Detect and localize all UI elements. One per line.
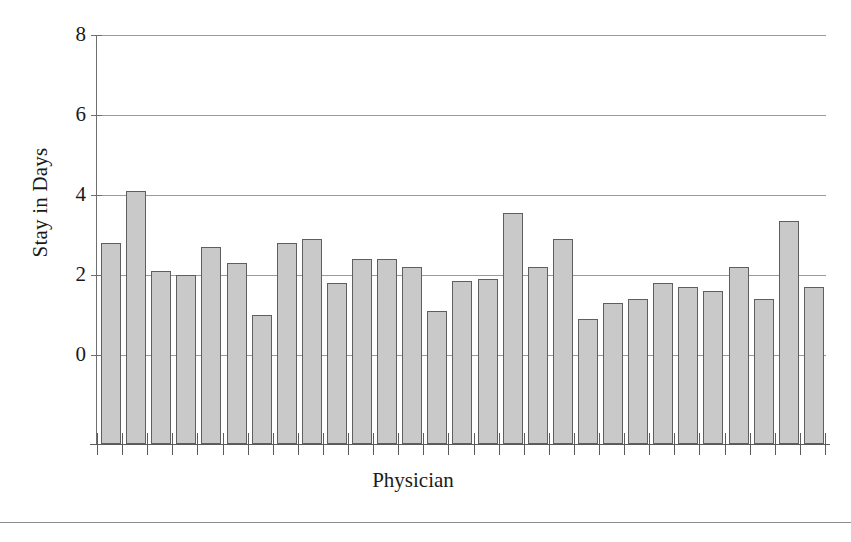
bar [377, 259, 397, 444]
x-axis-tick-mark [423, 433, 424, 455]
bar [176, 275, 196, 444]
bar [578, 319, 598, 444]
bar [628, 299, 648, 444]
bar [729, 267, 749, 444]
x-axis-tick-mark [800, 433, 801, 455]
x-axis-tick-mark [373, 433, 374, 455]
x-axis-tick-mark [474, 433, 475, 455]
x-axis-tick-mark [649, 433, 650, 455]
bar [678, 287, 698, 444]
bar [101, 243, 121, 444]
x-axis-tick-mark [298, 433, 299, 455]
y-axis-tick-mark [91, 115, 102, 116]
bar [352, 259, 372, 444]
bar [452, 281, 472, 444]
x-axis-tick-mark [323, 433, 324, 455]
x-axis-tick-mark [725, 433, 726, 455]
x-axis-tick-mark [750, 433, 751, 455]
x-axis-tick-mark [674, 433, 675, 455]
x-axis-tick-mark [624, 433, 625, 455]
x-axis-tick-mark [273, 433, 274, 455]
x-axis-tick-mark [147, 433, 148, 455]
y-axis-tick-label: 4 [46, 184, 86, 205]
bar [227, 263, 247, 444]
x-axis-tick-mark [825, 433, 826, 455]
bar [503, 213, 523, 444]
x-axis-tick-mark [172, 433, 173, 455]
bar [277, 243, 297, 444]
x-axis-tick-mark [599, 433, 600, 455]
plot-area [97, 35, 826, 444]
x-axis-tick-mark [97, 433, 98, 455]
x-axis-tick-mark [348, 433, 349, 455]
bar [779, 221, 799, 444]
y-axis-tick-mark [91, 275, 102, 276]
chart-figure: Stay in Days 02468 Physician [0, 0, 851, 542]
gridline [97, 195, 826, 196]
y-axis-tick-mark [91, 35, 102, 36]
bar [402, 267, 422, 444]
y-axis-tick-mark [91, 355, 102, 356]
x-axis-tick-mark [223, 433, 224, 455]
x-axis-tick-mark [248, 433, 249, 455]
x-axis-tick-mark [699, 433, 700, 455]
x-axis-tick-mark [775, 433, 776, 455]
gridline [97, 115, 826, 116]
x-axis-tick-mark [448, 433, 449, 455]
x-axis-baseline [90, 444, 830, 445]
x-axis-label: Physician [0, 468, 826, 493]
y-axis-tick-label: 0 [46, 344, 86, 365]
bar [302, 239, 322, 444]
footer-divider [0, 522, 851, 523]
bar [804, 287, 824, 444]
x-axis-tick-mark [499, 433, 500, 455]
bar [603, 303, 623, 444]
bar [754, 299, 774, 444]
bar [703, 291, 723, 444]
bar [327, 283, 347, 444]
x-axis-tick-mark [524, 433, 525, 455]
bar [201, 247, 221, 444]
y-axis-tick-label: 2 [46, 264, 86, 285]
x-axis-tick-mark [197, 433, 198, 455]
bar [252, 315, 272, 444]
y-axis-tick-mark [91, 195, 102, 196]
bar [653, 283, 673, 444]
bar [427, 311, 447, 444]
y-axis-tick-label: 6 [46, 104, 86, 125]
gridline [97, 35, 826, 36]
bar [126, 191, 146, 444]
bar [528, 267, 548, 444]
bar [478, 279, 498, 444]
x-axis-tick-mark [549, 433, 550, 455]
x-axis-tick-mark [398, 433, 399, 455]
y-axis-tick-label: 8 [46, 24, 86, 45]
x-axis-tick-mark [574, 433, 575, 455]
y-axis-tick-labels: 02468 [28, 0, 86, 460]
bar [553, 239, 573, 444]
x-axis-tick-mark [122, 433, 123, 455]
bar [151, 271, 171, 444]
